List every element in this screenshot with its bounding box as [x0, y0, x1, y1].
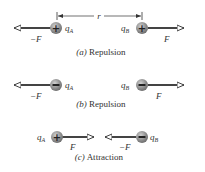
panel-a: r + + qA qB −F F (a) Repulsion: [14, 11, 184, 57]
panel-c: + qA qB F −F (c) Attraction: [37, 131, 159, 162]
charge-b-label: qB: [150, 132, 159, 143]
caption-a: (a) Repulsion: [76, 47, 126, 57]
charge-a-label: qA: [65, 80, 74, 91]
distance-dimension: r: [57, 11, 142, 21]
charge-b-label: qB: [121, 80, 130, 91]
plus-sign-icon: +: [52, 23, 60, 34]
charge-b-label: qB: [121, 23, 130, 34]
force-label-on-b: F: [163, 34, 170, 44]
minus-sign-icon: [139, 84, 146, 86]
plus-sign-icon: +: [53, 132, 61, 143]
caption-c: (c) Attraction: [75, 152, 124, 162]
charge-b-sphere: [136, 79, 148, 91]
coulomb-force-diagram: r + + qA qB −F F (a) Repulsion q: [0, 0, 205, 172]
charge-a-sphere: +: [51, 131, 63, 143]
minus-sign-icon: [53, 84, 60, 86]
force-label-on-a: F: [69, 142, 76, 152]
minus-sign-icon: [139, 136, 146, 138]
caption-b: (b) Repulsion: [76, 99, 126, 109]
charge-b-sphere: [136, 131, 148, 143]
force-label-on-a: −F: [30, 34, 42, 44]
force-label-on-b: −F: [119, 142, 131, 152]
plus-sign-icon: +: [138, 23, 146, 34]
charge-a-sphere: [50, 79, 62, 91]
charge-a-label: qA: [65, 23, 74, 34]
force-label-on-a: −F: [30, 91, 42, 101]
panel-b: qA qB −F F (b) Repulsion: [14, 79, 184, 109]
force-label-on-b: F: [155, 91, 162, 101]
charge-b-sphere: +: [136, 22, 148, 34]
distance-label: r: [97, 11, 101, 21]
charge-a-sphere: +: [50, 22, 62, 34]
charge-a-label: qA: [37, 132, 46, 143]
